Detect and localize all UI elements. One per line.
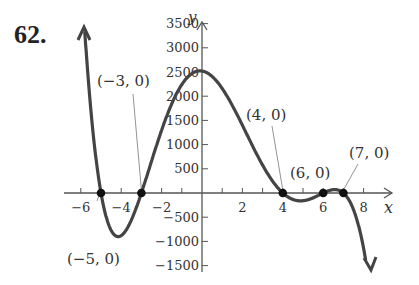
x-tick-label: 6 <box>319 200 327 215</box>
leader-line <box>343 164 358 190</box>
zero-point <box>339 189 348 198</box>
y-tick-label: 1000 <box>166 137 199 152</box>
y-tick-label: −1000 <box>155 234 199 249</box>
x-tick-label: 8 <box>359 200 367 215</box>
y-tick-label: −1500 <box>155 258 199 273</box>
x-tick-label: −6 <box>71 200 90 215</box>
y-axis-label: y <box>187 8 197 26</box>
x-tick-label: 2 <box>238 200 246 215</box>
zero-point <box>137 189 146 198</box>
x-tick-label: −4 <box>112 200 131 215</box>
y-tick-label: 2000 <box>166 89 199 104</box>
point-label: (4, 0) <box>246 106 286 124</box>
point-label: (−3, 0) <box>97 72 150 90</box>
zero-point <box>279 189 288 198</box>
curve-arrow-down-icon <box>364 257 376 270</box>
polynomial-curve <box>85 33 366 260</box>
y-tick-label: 500 <box>174 161 199 176</box>
point-label: (−5, 0) <box>67 250 120 268</box>
x-tick-label: 4 <box>279 200 287 215</box>
zero-point <box>97 189 106 198</box>
y-tick-label: 3000 <box>166 40 199 55</box>
y-tick-label: 1500 <box>166 113 199 128</box>
x-axis-label: x <box>384 198 393 217</box>
polynomial-chart: −6−4−22468−1500−1000−5005001000150020002… <box>0 0 419 285</box>
zero-point <box>319 189 328 198</box>
point-label: (7, 0) <box>349 144 389 162</box>
leader-line <box>133 94 141 190</box>
y-tick-label: −500 <box>163 210 199 225</box>
point-label: (6, 0) <box>290 164 330 182</box>
